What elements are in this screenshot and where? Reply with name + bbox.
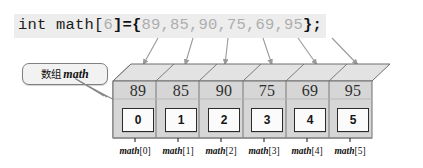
callout-text-name: math xyxy=(61,67,88,81)
arrow-to-cell-4 xyxy=(298,38,317,65)
element-label-0-index: [0] xyxy=(139,146,150,156)
code-statement-end: }; xyxy=(303,16,322,34)
arrow-to-cell-0 xyxy=(143,38,158,65)
element-label-5-index: [5] xyxy=(354,146,365,156)
box-top-face xyxy=(113,64,390,81)
callout-array-label: 数组math xyxy=(22,63,108,85)
cell-divider-top-2 xyxy=(199,64,217,81)
element-label-5-name: math xyxy=(334,146,354,156)
index-box-5: 5 xyxy=(337,108,369,132)
element-label-2-name: math xyxy=(205,146,225,156)
cell-value-4: 69 xyxy=(293,82,327,100)
index-box-4: 4 xyxy=(294,108,326,132)
cell-divider-top-1 xyxy=(156,64,174,81)
element-label-1-name: math xyxy=(162,146,182,156)
element-label-5: math[5] xyxy=(323,146,377,156)
cell-value-2: 90 xyxy=(207,82,241,100)
arrow-to-cell-1 xyxy=(185,38,193,65)
index-box-2: 2 xyxy=(208,108,240,132)
index-box-1: 1 xyxy=(165,108,197,132)
callout-text: 数组math xyxy=(41,66,88,82)
arrow-to-cell-3 xyxy=(263,38,272,65)
cell-value-1: 85 xyxy=(164,82,198,100)
callout-text-cn: 数组 xyxy=(41,68,61,80)
element-label-3-index: [3] xyxy=(268,146,279,156)
arrow-to-cell-5 xyxy=(332,38,358,65)
cell-value-5: 95 xyxy=(336,82,370,100)
index-box-3: 3 xyxy=(251,108,283,132)
arrow-to-cell-2 xyxy=(225,38,228,65)
code-assign: ]={ xyxy=(113,16,142,34)
code-declaration-line: int math[6]={89,85,90,75,69,95}; xyxy=(14,14,326,38)
code-initializer-values: 89,85,90,75,69,95 xyxy=(142,16,304,34)
code-array-size: 6 xyxy=(104,16,114,34)
cell-value-3: 75 xyxy=(250,82,284,100)
code-keyword-int: int math[ xyxy=(18,16,104,34)
cell-divider-top-3 xyxy=(243,64,261,81)
element-label-4-index: [4] xyxy=(311,146,322,156)
element-label-2-index: [2] xyxy=(225,146,236,156)
cell-value-0: 89 xyxy=(121,82,155,100)
element-label-0-name: math xyxy=(119,146,139,156)
element-label-3-name: math xyxy=(248,146,268,156)
array-memory-diagram: int math[6]={89,85,90,75,69,95}; 数组math xyxy=(0,0,423,168)
cell-divider-top-5 xyxy=(329,64,347,81)
cell-divider-top-4 xyxy=(286,64,304,81)
index-box-0: 0 xyxy=(122,108,154,132)
element-label-4-name: math xyxy=(291,146,311,156)
element-label-1-index: [1] xyxy=(182,146,193,156)
